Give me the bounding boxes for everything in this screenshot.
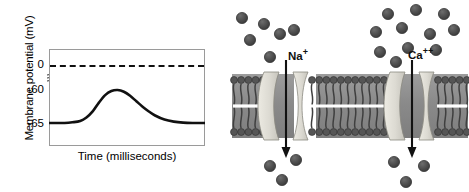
- membrane-svg: [230, 0, 469, 192]
- sodium-ion-extracellular: [288, 24, 299, 35]
- calcium-symbol: Ca: [408, 49, 423, 61]
- calcium-ion-intracellular: [400, 176, 411, 187]
- sodium-ion-extracellular: [264, 51, 275, 62]
- calcium-charge: ++: [423, 46, 434, 56]
- calcium-ion-intracellular: [418, 160, 429, 171]
- x-axis-title: Time (milliseconds): [49, 150, 205, 162]
- calcium-ion-intracellular: [388, 156, 399, 167]
- figure-container: Membrane potential (mV) 0 -60 -65 Time (…: [0, 0, 469, 192]
- sodium-charge: +: [303, 47, 308, 57]
- calcium-ion-extracellular: [448, 24, 459, 35]
- calcium-ion-extracellular: [438, 8, 449, 19]
- sodium-symbol: Na: [288, 50, 303, 62]
- sodium-ion-extracellular: [258, 18, 269, 29]
- calcium-ion-extracellular: [374, 46, 385, 57]
- calcium-ion-extracellular: [424, 28, 435, 39]
- sodium-ion-extracellular: [244, 34, 255, 45]
- sodium-ion-intracellular: [264, 160, 275, 171]
- sodium-ion-intracellular: [290, 154, 301, 165]
- sodium-ion-intracellular: [276, 174, 287, 185]
- calcium-ion-extracellular: [396, 22, 407, 33]
- calcium-ion-extracellular: [410, 4, 421, 15]
- sodium-ion-label: Na+: [288, 47, 308, 62]
- action-potential-chart: Membrane potential (mV) 0 -60 -65 Time (…: [0, 0, 230, 192]
- calcium-ion-label: Ca++: [408, 46, 433, 61]
- y-tick-label-minus60: -60: [4, 83, 44, 95]
- y-axis-title: Membrane potential (mV): [23, 3, 35, 153]
- y-tick-label-minus65: -65: [4, 117, 44, 129]
- y-tick-label-0: 0: [10, 58, 44, 70]
- calcium-ion-extracellular: [390, 56, 401, 67]
- membrane-diagram: Na+ Ca++: [230, 0, 469, 192]
- calcium-ion-extracellular: [370, 26, 381, 37]
- calcium-ion-extracellular: [382, 8, 393, 19]
- sodium-ion-extracellular: [274, 28, 285, 39]
- membrane-potential-curve: [49, 49, 205, 146]
- sodium-ion-extracellular: [236, 12, 247, 23]
